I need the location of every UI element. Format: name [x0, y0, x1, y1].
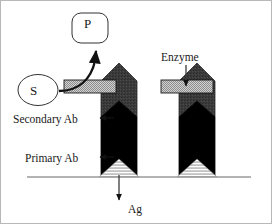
figure-canvas: P S Enzyme Secondary Ab Primary Ab Ag [0, 0, 272, 224]
enzyme-bar-left [64, 80, 116, 93]
immuno-complex-right [161, 63, 217, 177]
primary-antibody-label: Primary Ab [25, 153, 78, 165]
antigen-label: Ag [128, 204, 142, 216]
enzyme-bar-right [161, 80, 213, 93]
enzyme-label: Enzyme [161, 52, 199, 64]
product-label: P [84, 17, 91, 30]
secondary-antibody-label: Secondary Ab [13, 114, 78, 126]
substrate-circle [18, 75, 58, 106]
substrate-label: S [30, 84, 37, 97]
